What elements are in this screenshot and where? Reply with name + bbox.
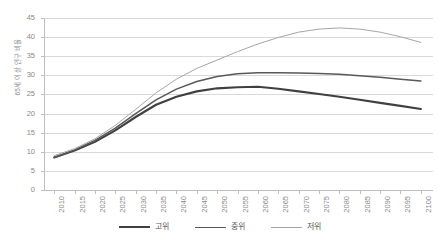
- x-tick-mark: [421, 190, 422, 194]
- x-tick-mark: [278, 190, 279, 194]
- x-tick-mark: [238, 190, 239, 194]
- x-tick-mark: [400, 190, 401, 194]
- legend-label: 고위: [155, 223, 169, 231]
- legend-swatch-line: [271, 227, 302, 228]
- x-tick-mark: [54, 190, 55, 194]
- x-tick-mark: [380, 190, 381, 194]
- y-tick-label: 20: [5, 110, 35, 118]
- y-tick-label: 30: [5, 71, 35, 79]
- x-tick-mark: [360, 190, 361, 194]
- x-tick-mark: [136, 190, 137, 194]
- legend-item-중위[interactable]: 중위: [195, 223, 245, 231]
- x-tick-mark: [197, 190, 198, 194]
- y-tick-label: 10: [5, 148, 35, 156]
- x-tick-mark: [339, 190, 340, 194]
- x-tick-mark: [176, 190, 177, 194]
- x-tick-mark: [258, 190, 259, 194]
- y-tick-label: 15: [5, 129, 35, 137]
- x-tick-mark: [156, 190, 157, 194]
- chart-legend: 고위중위저위: [0, 219, 439, 235]
- x-tick-mark: [319, 190, 320, 194]
- x-tick-mark: [75, 190, 76, 194]
- y-tick-mark: [41, 190, 44, 191]
- legend-swatch-line: [195, 227, 226, 228]
- y-tick-label: 35: [5, 52, 35, 60]
- chart-container: 65세 이상 인구 비율 051015202530354045 20102015…: [0, 0, 439, 249]
- y-tick-label: 25: [5, 90, 35, 98]
- legend-label: 중위: [231, 223, 245, 231]
- legend-label: 저위: [307, 223, 321, 231]
- x-tick-mark: [95, 190, 96, 194]
- x-tick-mark: [115, 190, 116, 194]
- y-tick-label: 45: [5, 14, 35, 22]
- legend-item-저위[interactable]: 저위: [271, 223, 321, 231]
- series-lines: [44, 18, 433, 190]
- series-line-중위: [54, 73, 421, 158]
- y-tick-label: 40: [5, 33, 35, 41]
- y-tick-label: 5: [5, 167, 35, 175]
- x-tick-mark: [299, 190, 300, 194]
- x-tick-mark: [217, 190, 218, 194]
- series-line-고위: [54, 87, 421, 158]
- y-tick-label: 0: [5, 186, 35, 194]
- series-line-저위: [54, 28, 421, 156]
- legend-item-고위[interactable]: 고위: [119, 223, 169, 231]
- legend-swatch-line: [119, 226, 150, 228]
